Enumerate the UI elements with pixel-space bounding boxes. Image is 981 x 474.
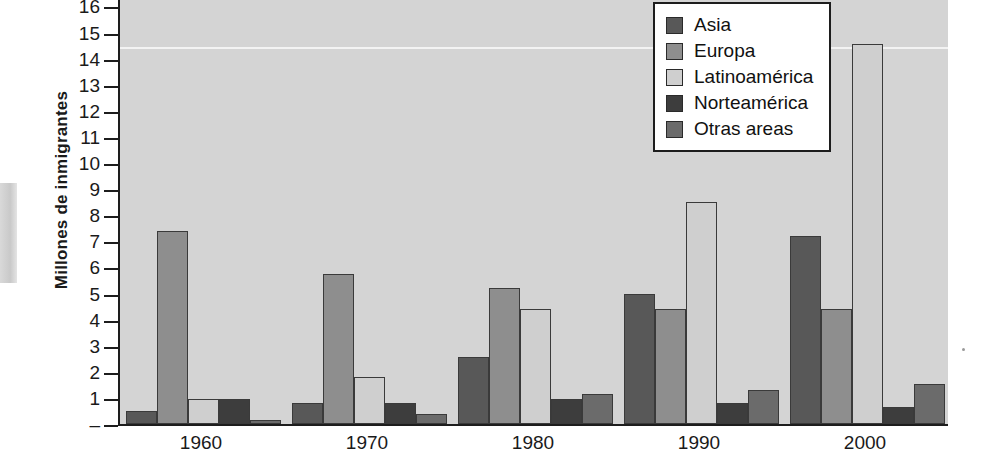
y-tick-label: 6 — [58, 257, 100, 279]
y-tick-label: 14 — [58, 49, 100, 71]
y-tick-label: 13 — [58, 75, 100, 97]
y-tick-label-wrap: 13 — [38, 75, 100, 97]
y-tick-label: 4 — [58, 310, 100, 332]
bar-otrasareas-1960 — [250, 420, 281, 424]
y-tick-7 — [104, 242, 118, 244]
y-tick-13 — [104, 86, 118, 88]
y-tick-label-wrap: 10 — [38, 153, 100, 175]
legend-swatch-icon — [666, 43, 683, 60]
speck-artifact — [962, 348, 965, 351]
y-tick-label: 5 — [58, 284, 100, 306]
y-tick-label: 16 — [58, 0, 100, 18]
page-edge-artifact — [0, 183, 17, 283]
bar-asia-1960 — [126, 411, 157, 424]
bar-asia-1980 — [458, 357, 489, 424]
y-tick-label-wrap: 7 — [38, 231, 100, 253]
bar-norteamrica-1970 — [385, 403, 416, 424]
y-tick-label: 9 — [58, 179, 100, 201]
bar-europa-1990 — [655, 309, 686, 424]
bar-norteamrica-2000 — [883, 407, 914, 424]
bar-asia-1990 — [624, 294, 655, 425]
legend-swatch-icon — [666, 17, 683, 34]
y-tick-label: 7 — [58, 231, 100, 253]
x-label-1970: 1970 — [287, 432, 447, 454]
y-tick-3 — [104, 347, 118, 349]
bar-otrasareas-1990 — [748, 390, 779, 424]
legend-item-latinoamrica: Latinoamérica — [666, 64, 813, 90]
y-tick-label: 8 — [58, 205, 100, 227]
y-tick-label-wrap: 9 — [38, 179, 100, 201]
legend-label: Latinoamérica — [694, 66, 813, 88]
bar-latinoamrica-1990 — [686, 202, 717, 424]
bar-europa-1980 — [489, 288, 520, 424]
chart-screenshot: Millones de inmigrantes 1615141312111098… — [0, 0, 981, 474]
legend-item-otrasareas: Otras areas — [666, 116, 813, 142]
y-tick-9 — [104, 190, 118, 192]
y-tick-2 — [104, 373, 118, 375]
bar-latinoamrica-1970 — [354, 377, 385, 424]
bar-norteamrica-1960 — [219, 399, 250, 424]
y-tick-label-wrap: 3 — [38, 336, 100, 358]
bar-norteamrica-1980 — [551, 399, 582, 424]
bar-otrasareas-1980 — [582, 394, 613, 424]
y-tick-1 — [104, 399, 118, 401]
bar-latinoamrica-2000 — [852, 44, 883, 424]
bar-asia-1970 — [292, 403, 323, 424]
legend-item-norteamrica: Norteamérica — [666, 90, 813, 116]
y-tick-6 — [104, 268, 118, 270]
y-tick-label: 1 — [58, 388, 100, 410]
legend-label: Norteamérica — [694, 92, 808, 114]
legend-label: Otras areas — [694, 118, 793, 140]
y-tick-label: 2 — [58, 362, 100, 384]
y-tick-label: 15 — [58, 23, 100, 45]
y-tick-label: 3 — [58, 336, 100, 358]
bar-europa-1960 — [157, 231, 188, 424]
y-tick-label-wrap: 1 — [38, 388, 100, 410]
bar-norteamrica-1990 — [717, 403, 748, 424]
bar-europa-1970 — [323, 274, 354, 424]
bar-latinoamrica-1980 — [520, 309, 551, 424]
x-label-2000: 2000 — [785, 432, 945, 454]
y-tick-label-wrap: 4 — [38, 310, 100, 332]
legend-swatch-icon — [666, 121, 683, 138]
legend-item-europa: Europa — [666, 38, 813, 64]
chart-legend: AsiaEuropaLatinoaméricaNorteaméricaOtras… — [653, 2, 831, 152]
y-tick-label: 11 — [58, 127, 100, 149]
y-tick-16 — [104, 7, 118, 9]
y-tick-label: – — [58, 414, 100, 436]
y-tick-14 — [104, 60, 118, 62]
y-tick-label-wrap: 2 — [38, 362, 100, 384]
legend-swatch-icon — [666, 69, 683, 86]
y-tick-label-wrap: 12 — [38, 101, 100, 123]
y-tick-label-wrap: 5 — [38, 284, 100, 306]
legend-label: Asia — [694, 14, 731, 36]
legend-label: Europa — [694, 40, 755, 62]
bar-asia-2000 — [790, 236, 821, 424]
bar-europa-2000 — [821, 309, 852, 424]
bar-otrasareas-2000 — [914, 384, 945, 424]
y-tick-label-wrap: 15 — [38, 23, 100, 45]
y-tick-12 — [104, 112, 118, 114]
y-tick-label-wrap: 16 — [38, 0, 100, 18]
bar-latinoamrica-1960 — [188, 399, 219, 424]
x-label-1980: 1980 — [453, 432, 613, 454]
legend-swatch-icon — [666, 95, 683, 112]
y-tick-label: 12 — [58, 101, 100, 123]
y-tick-15 — [104, 34, 118, 36]
y-tick-10 — [104, 164, 118, 166]
y-tick-label-wrap: 14 — [38, 49, 100, 71]
y-tick-4 — [104, 321, 118, 323]
x-label-1960: 1960 — [121, 432, 281, 454]
y-tick-– — [104, 425, 118, 427]
y-tick-label-wrap: 6 — [38, 257, 100, 279]
y-tick-8 — [104, 216, 118, 218]
x-label-1990: 1990 — [619, 432, 779, 454]
y-tick-11 — [104, 138, 118, 140]
y-tick-label-wrap: – — [38, 414, 100, 436]
bar-otrasareas-1970 — [416, 414, 447, 424]
y-tick-5 — [104, 295, 118, 297]
y-tick-label-wrap: 11 — [38, 127, 100, 149]
y-tick-label: 10 — [58, 153, 100, 175]
legend-item-asia: Asia — [666, 12, 813, 38]
y-tick-label-wrap: 8 — [38, 205, 100, 227]
